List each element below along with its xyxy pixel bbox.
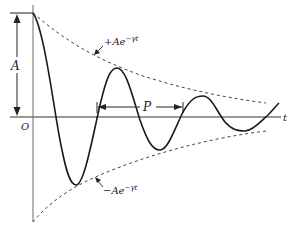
lower-envelope-exponent: −γt	[125, 184, 138, 192]
period-arrow	[97, 102, 183, 113]
origin-label: O	[21, 121, 29, 132]
lower-envelope-pointer	[95, 177, 103, 187]
lower-envelope-label: −Ae−γt	[103, 184, 138, 196]
lower-envelope-base: −Ae	[103, 185, 125, 196]
upper-envelope-curve	[33, 13, 266, 103]
time-axis-label: t	[283, 112, 288, 123]
upper-envelope-pointer	[94, 46, 103, 55]
upper-envelope-label: +Ae−γt	[104, 35, 139, 47]
lower-envelope-curve	[33, 131, 266, 222]
upper-envelope-base: +Ae	[104, 36, 126, 47]
damped-oscillation-diagram: A O t P +Ae−γt −Ae−γt	[0, 0, 290, 236]
period-label: P	[142, 100, 152, 114]
amplitude-label: A	[10, 59, 20, 73]
upper-envelope-exponent: −γt	[126, 35, 139, 43]
svg-text:+Ae−γt: +Ae−γt	[104, 35, 139, 47]
damped-oscillation-curve	[33, 13, 279, 185]
svg-text:−Ae−γt: −Ae−γt	[103, 184, 138, 196]
